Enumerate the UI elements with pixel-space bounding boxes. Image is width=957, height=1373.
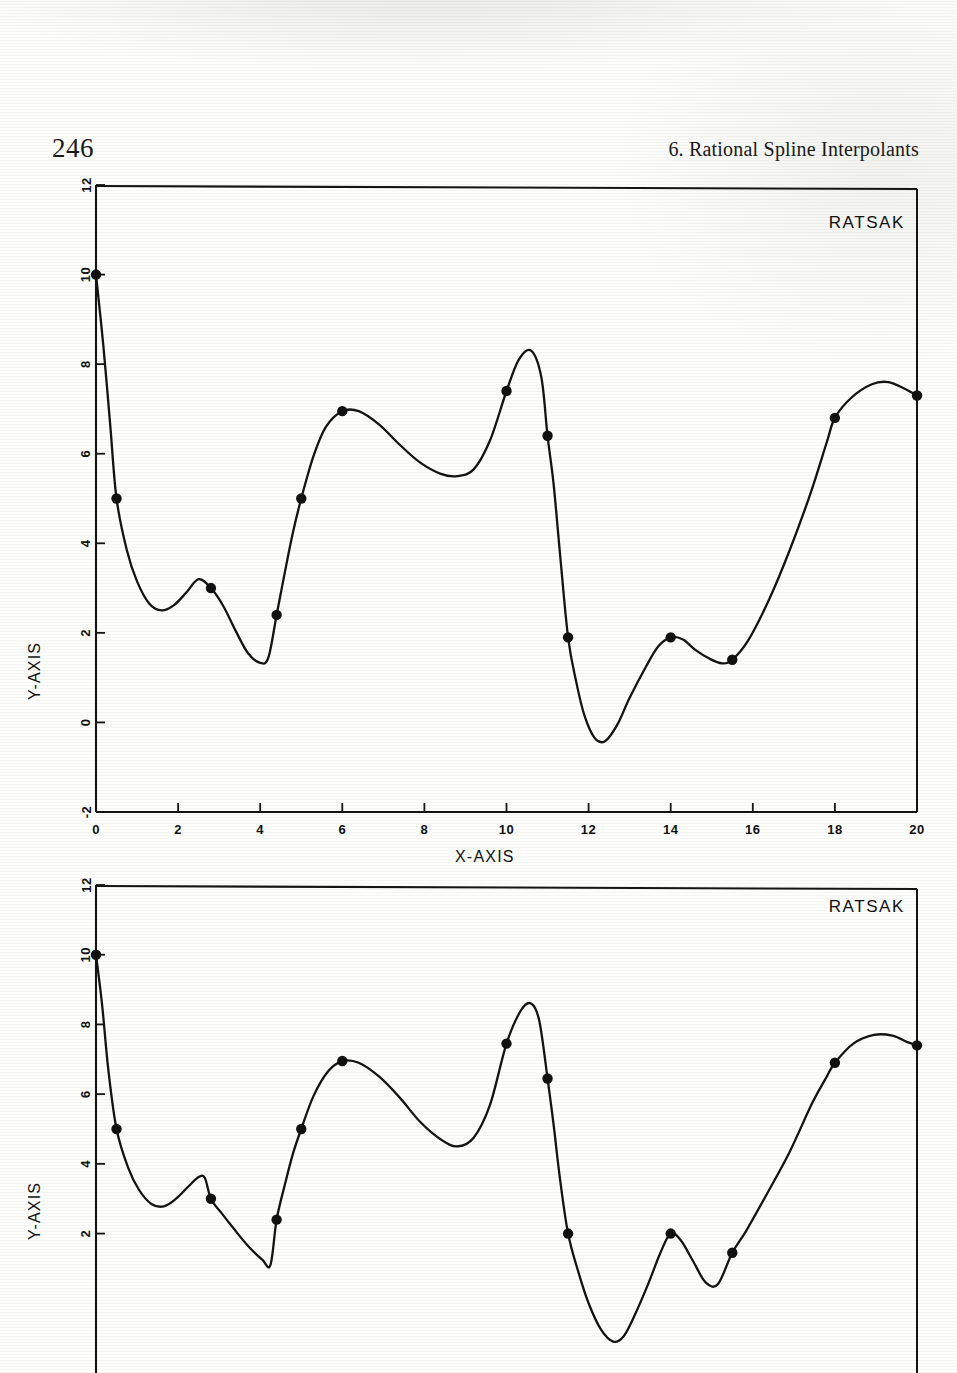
y-axis-title-top: Y-AXIS	[26, 642, 44, 700]
svg-text:16: 16	[745, 822, 760, 837]
svg-text:8: 8	[79, 360, 94, 368]
data-points-bottom	[91, 950, 922, 1258]
axis-ticks-bottom	[96, 885, 105, 1234]
svg-text:10: 10	[499, 822, 514, 837]
running-head: 6. Rational Spline Interpolants	[668, 138, 919, 161]
svg-text:6: 6	[338, 822, 346, 837]
svg-text:0: 0	[92, 822, 100, 837]
svg-text:4: 4	[256, 822, 264, 837]
y-tick-labels-bottom: 24681012	[79, 877, 94, 1237]
chart-title-top: RATSAK	[829, 213, 905, 232]
svg-text:-2: -2	[79, 806, 94, 819]
svg-text:8: 8	[421, 822, 429, 837]
svg-text:0: 0	[79, 719, 94, 727]
svg-text:6: 6	[79, 450, 94, 458]
svg-text:8: 8	[79, 1021, 94, 1029]
svg-text:2: 2	[79, 629, 94, 637]
svg-text:14: 14	[663, 822, 679, 837]
spline-curve-bottom	[96, 955, 917, 1342]
spline-curve-top	[96, 275, 917, 743]
scanned-page: 246 6. Rational Spline Interpolants 0246…	[0, 0, 957, 1373]
svg-text:2: 2	[174, 822, 182, 837]
svg-text:6: 6	[79, 1090, 94, 1098]
plot-frame-top	[96, 185, 917, 812]
svg-text:18: 18	[827, 822, 842, 837]
svg-text:20: 20	[909, 822, 924, 837]
svg-text:2: 2	[79, 1230, 94, 1238]
chart-bottom-svg: 24681012 RATSAK	[0, 860, 957, 1373]
svg-text:12: 12	[581, 822, 596, 837]
chart-ratsak-bottom: 24681012 RATSAK Y-AXIS	[0, 860, 957, 1373]
x-tick-labels-top: 02468101214161820	[92, 822, 925, 837]
chart-ratsak-top: 02468101214161820 -2024681012 RATSAK Y-A…	[0, 160, 957, 860]
chart-top-svg: 02468101214161820 -2024681012 RATSAK	[0, 160, 957, 860]
plot-frame-bottom	[96, 885, 917, 1373]
y-axis-title-bottom: Y-AXIS	[26, 1182, 44, 1240]
svg-text:12: 12	[79, 177, 94, 192]
svg-text:4: 4	[79, 539, 94, 547]
svg-text:4: 4	[79, 1160, 94, 1168]
axis-ticks-top	[96, 185, 917, 812]
data-points-top	[91, 269, 922, 665]
svg-text:12: 12	[79, 877, 94, 892]
chart-title-bottom: RATSAK	[829, 897, 905, 916]
